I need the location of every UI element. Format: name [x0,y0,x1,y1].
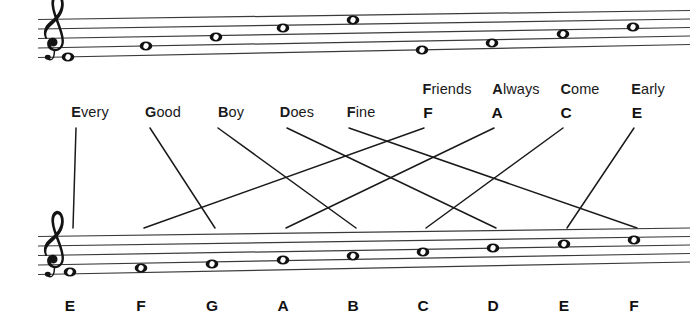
text-layer: Friends Always Come Early Every Good Boy… [0,0,697,328]
mnemonic-word-does: Does [280,104,314,120]
bottom-note-letter: F [136,297,145,315]
mnemonic-initial: F [422,81,431,97]
mnemonic-initial: A [492,81,503,97]
mnemonic-initial: G [145,104,156,120]
mnemonic-rest: oes [290,104,314,120]
mnemonic-initial-letter: F [423,104,432,122]
mnemonic-rest: very [81,104,109,120]
bottom-note-letter: B [347,297,358,315]
mnemonic-word-always: Always [492,81,539,97]
mnemonic-rest: ood [156,104,181,120]
mnemonic-word-friends: Friends [422,81,471,97]
bottom-note-letter: E [559,297,569,315]
mnemonic-initial: E [71,104,81,120]
mnemonic-initial-letter: E [632,104,642,122]
mnemonic-rest: ine [356,104,376,120]
mnemonic-word-come: Come [560,81,599,97]
mnemonic-rest: lways [503,81,540,97]
mnemonic-initial: E [631,81,641,97]
mnemonic-word-every: Every [71,104,109,120]
mnemonic-initial-letter: A [491,104,502,122]
mnemonic-word-good: Good [145,104,181,120]
music-mnemonic-figure: Friends Always Come Early Every Good Boy… [0,0,697,328]
mnemonic-rest: ome [571,81,600,97]
mnemonic-initial: B [218,104,229,120]
mnemonic-initial-letter: C [560,104,571,122]
mnemonic-rest: oy [229,104,245,120]
mnemonic-initial: D [280,104,291,120]
mnemonic-rest: riends [431,81,471,97]
mnemonic-word-boy: Boy [218,104,244,120]
bottom-note-letter: C [417,297,428,315]
bottom-note-letter: E [65,297,75,315]
mnemonic-rest: arly [641,81,665,97]
bottom-note-letter: A [277,297,288,315]
bottom-note-letter: F [629,297,638,315]
mnemonic-initial: F [347,104,356,120]
bottom-note-letter: D [487,297,498,315]
mnemonic-word-early: Early [631,81,665,97]
mnemonic-initial: C [560,81,571,97]
bottom-note-letter: G [206,297,218,315]
mnemonic-word-fine: Fine [347,104,376,120]
